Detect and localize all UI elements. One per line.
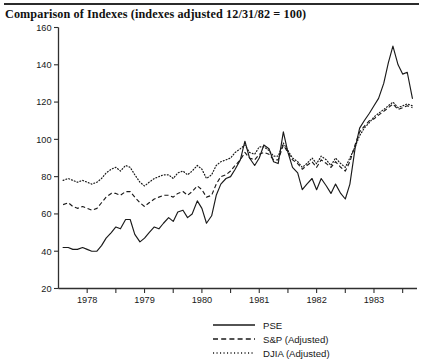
- x-axis-tick-label: 1978: [77, 295, 97, 305]
- chart-page: Comparison of Indexes (indexes adjusted …: [0, 0, 423, 362]
- dashed-line-swatch: [213, 334, 255, 344]
- y-axis-tick-label: 120: [36, 97, 51, 107]
- legend-label-djia: DJIA (Adjusted): [263, 348, 330, 359]
- y-axis-tick-label: 40: [41, 247, 51, 257]
- x-axis-tick-label: 1980: [192, 295, 212, 305]
- y-axis-tick-label: 60: [41, 209, 51, 219]
- x-axis-tick-label: 1982: [306, 295, 326, 305]
- line-chart: 2040608010012014016019781979198019811982…: [0, 0, 423, 362]
- series-line-djia: [63, 102, 412, 186]
- legend-item-pse: PSE: [213, 318, 383, 332]
- legend-item-sp: S&P (Adjusted): [213, 332, 383, 346]
- legend-label-pse: PSE: [263, 320, 282, 331]
- x-axis-tick-label: 1983: [364, 295, 384, 305]
- series-line-sp: [63, 104, 412, 210]
- x-axis-tick-label: 1981: [249, 295, 269, 305]
- series-line-pse: [63, 46, 412, 251]
- chart-series: [63, 46, 412, 251]
- y-axis-tick-label: 140: [36, 60, 51, 70]
- y-axis-tick-label: 80: [41, 172, 51, 182]
- chart-legend: PSE S&P (Adjusted) DJIA (Adjusted): [213, 318, 383, 360]
- solid-line-swatch: [213, 320, 255, 330]
- y-axis-tick-label: 20: [41, 284, 51, 294]
- dotted-line-swatch: [213, 348, 255, 358]
- y-axis-tick-label: 100: [36, 135, 51, 145]
- x-axis-tick-label: 1979: [134, 295, 154, 305]
- legend-item-djia: DJIA (Adjusted): [213, 346, 383, 360]
- legend-label-sp: S&P (Adjusted): [263, 334, 328, 345]
- chart-axes: 2040608010012014016019781979198019811982…: [36, 23, 417, 305]
- y-axis-tick-label: 160: [36, 23, 51, 33]
